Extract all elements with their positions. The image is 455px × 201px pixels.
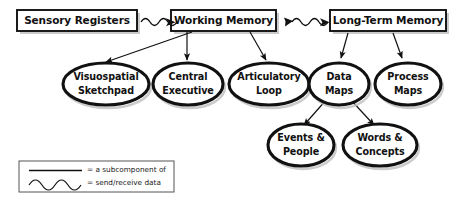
process-maps-ellipse[interactable] <box>375 63 441 105</box>
data-maps-ellipse[interactable] <box>309 63 369 105</box>
node-events-and-people[interactable]: Events & People <box>268 124 336 169</box>
working-memory-label: Working Memory <box>174 14 273 26</box>
node-long-term-memory[interactable]: Long-Term Memory <box>330 10 449 34</box>
events-and-people-label-line2: People <box>283 146 320 157</box>
wave-arrowhead-left-2 <box>284 18 293 27</box>
edge-longterm-to-process-maps <box>393 33 402 58</box>
articulatory-loop-ellipse[interactable] <box>229 63 309 105</box>
wave-connector-working-to-longterm <box>284 18 330 27</box>
articulatory-loop-label-line2: Loop <box>256 85 282 96</box>
articulatory-loop-label-line1: Articulatory <box>237 71 301 82</box>
legend: = a subcomponent of = send/receive data <box>19 161 174 192</box>
visuospatial-sketchpad-ellipse[interactable] <box>63 63 149 105</box>
node-working-memory[interactable]: Working Memory <box>171 10 279 34</box>
data-maps-label-line1: Data <box>326 71 351 82</box>
edge-working-to-articulatory <box>250 32 266 60</box>
memory-architecture-diagram: Sensory Registers Working Memory Long-Te… <box>0 0 455 201</box>
events-and-people-label-line1: Events & <box>277 132 324 143</box>
long-term-memory-label: Long-Term Memory <box>333 14 444 26</box>
words-and-concepts-ellipse[interactable] <box>343 124 417 166</box>
node-sensory-registers[interactable]: Sensory Registers <box>17 10 140 34</box>
data-maps-label-line2: Maps <box>325 85 354 96</box>
central-executive-label-line1: Central <box>169 71 208 82</box>
node-central-executive[interactable]: Central Executive <box>153 63 225 108</box>
process-maps-label-line1: Process <box>387 71 429 82</box>
node-articulatory-loop[interactable]: Articulatory Loop <box>229 63 311 108</box>
events-and-people-ellipse[interactable] <box>268 124 334 166</box>
node-data-maps[interactable]: Data Maps <box>309 63 371 108</box>
edge-longterm-to-data-maps <box>341 33 348 58</box>
process-maps-label-line2: Maps <box>394 85 423 96</box>
visuospatial-sketchpad-label-line2: Sketchpad <box>78 85 134 96</box>
visuospatial-sketchpad-label-line1: Visuospatial <box>73 71 138 82</box>
legend-wave-label: = send/receive data <box>87 178 161 187</box>
central-executive-label-line2: Executive <box>162 85 214 96</box>
edge-working-to-visuospatial <box>106 32 192 62</box>
sensory-registers-label: Sensory Registers <box>24 14 130 26</box>
node-visuospatial-sketchpad[interactable]: Visuospatial Sketchpad <box>63 63 151 108</box>
legend-solid-label: = a subcomponent of <box>87 165 166 174</box>
node-process-maps[interactable]: Process Maps <box>375 63 443 108</box>
words-and-concepts-label-line2: Concepts <box>355 146 404 157</box>
central-executive-ellipse[interactable] <box>153 63 223 105</box>
node-words-and-concepts[interactable]: Words & Concepts <box>343 124 419 169</box>
words-and-concepts-label-line1: Words & <box>357 132 402 143</box>
